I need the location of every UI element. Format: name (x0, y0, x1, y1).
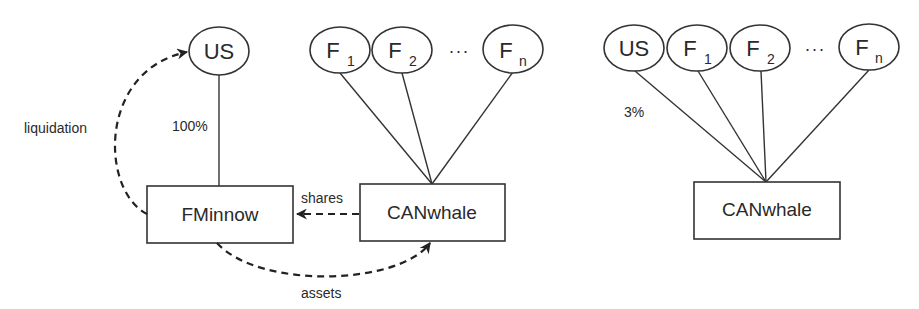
node-f2-right-sub: 2 (767, 51, 775, 67)
node-f2-right: F 2 (730, 25, 790, 71)
node-f1-right-sub: 1 (704, 51, 712, 67)
svg-text:F: F (499, 38, 512, 63)
ellipsis: ··· (449, 41, 470, 61)
node-us: US (189, 27, 249, 75)
node-fn-right-sub: n (875, 50, 883, 66)
edge-us-canwhale (635, 71, 766, 182)
flow-liquidation-label: liquidation (24, 120, 87, 136)
box-fminnow-label: FMinnow (181, 204, 258, 225)
node-us-right: US (604, 25, 664, 71)
edge-f1-canwhale-right (698, 71, 766, 182)
edge-f2-canwhale (402, 73, 432, 184)
node-f2: F 2 (372, 27, 432, 73)
svg-text:F: F (326, 38, 339, 63)
node-fn: F n (483, 25, 543, 73)
node-us-right-label: US (619, 36, 650, 61)
box-canwhale-left-label: CANwhale (387, 202, 477, 223)
flow-assets (217, 243, 430, 276)
node-f1-right-base: F (683, 36, 696, 61)
node-f2-sub: 2 (409, 53, 417, 69)
box-canwhale-right: CANwhale (694, 182, 840, 239)
edge-f2-canwhale-right (761, 71, 766, 182)
node-f1-sub: 1 (347, 53, 355, 69)
svg-text:F: F (746, 36, 759, 61)
box-fminnow: FMinnow (147, 186, 293, 243)
edge-fn-canwhale-right (766, 70, 869, 182)
flow-shares-label: shares (301, 190, 343, 206)
node-fn-base: F (499, 38, 512, 63)
ellipsis-right: ··· (805, 39, 826, 59)
svg-text:F: F (388, 38, 401, 63)
node-fn-sub: n (519, 53, 527, 69)
stake-label-3: 3% (624, 104, 644, 120)
merger-diagram: US F 1 F 2 ··· F n 100% (0, 0, 919, 309)
box-canwhale-right-label: CANwhale (722, 199, 812, 220)
node-f2-right-base: F (746, 36, 759, 61)
stake-label-100: 100% (172, 118, 208, 134)
node-f2-base: F (388, 38, 401, 63)
node-fn-right: F n (839, 24, 899, 70)
flow-assets-label: assets (301, 285, 341, 301)
node-f1: F 1 (310, 27, 370, 73)
left-panel: US F 1 F 2 ··· F n 100% (24, 25, 543, 301)
node-f1-right: F 1 (667, 25, 727, 71)
box-canwhale-left: CANwhale (360, 184, 505, 241)
edge-fn-canwhale (432, 72, 513, 184)
svg-text:F: F (683, 36, 696, 61)
node-us-label: US (204, 39, 235, 64)
edge-f1-canwhale (340, 73, 432, 184)
node-fn-right-base: F (855, 35, 868, 60)
right-panel: US F 1 F 2 ··· F n 3% CANwhale (604, 24, 899, 239)
svg-text:F: F (855, 35, 868, 60)
node-f1-base: F (326, 38, 339, 63)
